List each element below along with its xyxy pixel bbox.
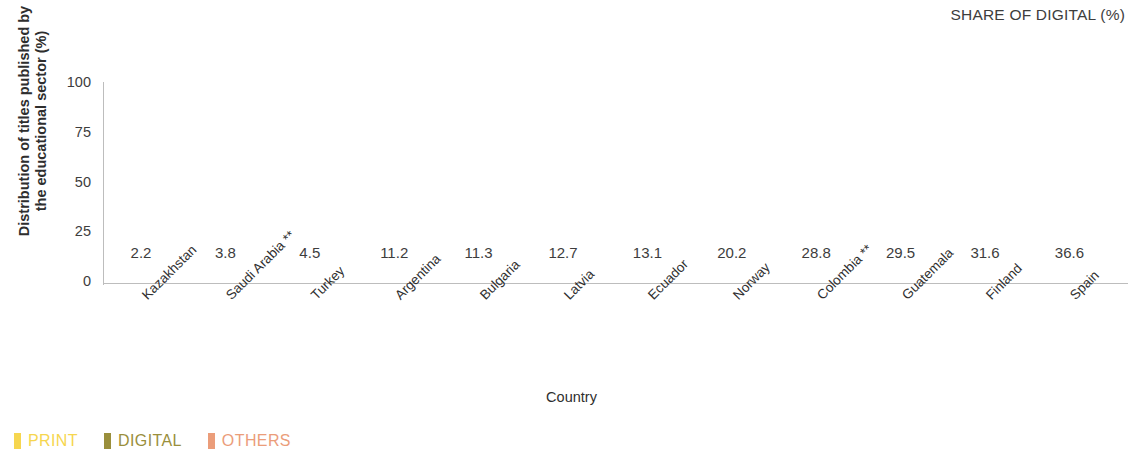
- x-axis-line: [103, 283, 1128, 284]
- y-tick-label-100: 100: [51, 74, 91, 90]
- legend-label: PRINT: [28, 432, 78, 450]
- y-tick-label-25: 25: [51, 223, 91, 239]
- x-tick-label: Bulgaria: [477, 257, 523, 303]
- share-of-digital-value: 11.3: [465, 244, 493, 261]
- legend-swatch-icon: [14, 433, 21, 449]
- x-axis-title: Country: [0, 389, 1143, 405]
- x-tick-label: Latvia: [561, 267, 597, 303]
- legend-label: OTHERS: [222, 432, 291, 450]
- y-tick-label-50: 50: [51, 174, 91, 190]
- share-of-digital-value: 31.6: [970, 244, 999, 261]
- x-tick-label: Spain: [1067, 268, 1102, 303]
- x-tick-label: Ecuador: [645, 256, 691, 302]
- share-of-digital-value: 13.1: [633, 244, 662, 261]
- share-of-digital-value: 28.8: [802, 244, 831, 261]
- chart-plot-area: 2.2Kazakhstan3.8Saudi Arabia **4.5Turkey…: [104, 84, 1127, 283]
- legend-item-others[interactable]: OTHERS: [208, 432, 291, 450]
- share-of-digital-header: SHARE OF DIGITAL (%): [950, 6, 1125, 24]
- share-of-digital-value: 2.2: [131, 244, 152, 261]
- chart-legend: PRINTDIGITALOTHERS: [14, 432, 291, 450]
- x-tick-label: Turkey: [308, 263, 347, 302]
- y-tick-label-75: 75: [51, 124, 91, 140]
- share-of-digital-value: 29.5: [886, 244, 915, 261]
- share-of-digital-value: 12.7: [548, 244, 577, 261]
- legend-swatch-icon: [104, 433, 111, 449]
- legend-label: DIGITAL: [118, 432, 182, 450]
- x-tick-label: Saudi Arabia **: [223, 228, 298, 303]
- share-of-digital-value: 4.5: [299, 244, 320, 261]
- share-of-digital-value: 3.8: [215, 244, 236, 261]
- share-of-digital-value: 20.2: [717, 244, 746, 261]
- share-of-digital-value: 11.2: [380, 244, 408, 261]
- y-axis-title: Distribution of titles published by the …: [16, 0, 50, 246]
- share-of-digital-value: 36.6: [1055, 244, 1084, 261]
- x-tick-label: Finland: [983, 261, 1025, 303]
- legend-item-digital[interactable]: DIGITAL: [104, 432, 182, 450]
- y-tick-label-0: 0: [51, 273, 91, 289]
- x-tick-label: Norway: [730, 260, 773, 303]
- legend-item-print[interactable]: PRINT: [14, 432, 78, 450]
- legend-swatch-icon: [208, 433, 215, 449]
